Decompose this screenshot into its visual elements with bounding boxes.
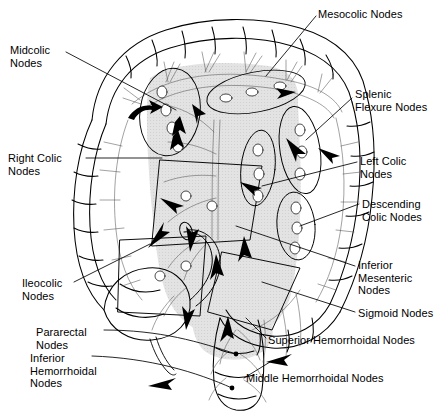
label-pararectal-nodes: Pararectal Nodes — [36, 326, 87, 351]
label-right-colic-nodes: Right Colic Nodes — [8, 152, 62, 177]
label-midcolic-nodes: Midcolic Nodes — [10, 44, 50, 69]
anatomical-figure: Mesocolic Nodes Midcolic Nodes Splenic F… — [0, 0, 435, 416]
label-splenic-flexure-nodes: Splenic Flexure Nodes — [355, 88, 427, 113]
label-inferior-mesenteric-nodes: Inferior Mesenteric Nodes — [358, 259, 412, 297]
appendix — [150, 337, 176, 375]
label-left-colic-nodes: Left Colic Nodes — [360, 155, 406, 180]
label-sigmoid-nodes: Sigmoid Nodes — [358, 307, 433, 320]
label-middle-hemorrhoidal-nodes: Middle Hemorrhoidal Nodes — [246, 372, 384, 385]
label-ileocolic-nodes: Ileocolic Nodes — [22, 277, 62, 302]
ascending-colon — [72, 120, 116, 310]
label-inferior-hemorrhoidal-nodes: Inferior Hemorrhoidal Nodes — [30, 352, 97, 390]
label-superior-hemorrhoidal-nodes: Superior Hemorrhoidal Nodes — [268, 334, 415, 347]
label-descending-colic-nodes: Descending Colic Nodes — [362, 198, 422, 223]
label-mesocolic-nodes: Mesocolic Nodes — [318, 8, 403, 21]
